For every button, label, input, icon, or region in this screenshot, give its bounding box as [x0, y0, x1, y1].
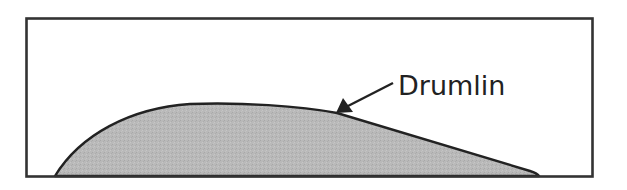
pointer-arrow: [336, 83, 393, 113]
drumlin-landform: [55, 103, 539, 176]
drumlin-diagram: Drumlin: [0, 0, 627, 190]
drumlin-label: Drumlin: [398, 70, 505, 101]
